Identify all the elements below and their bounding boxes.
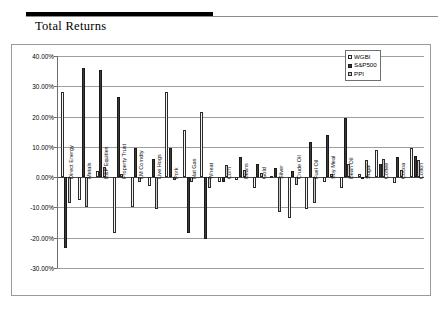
x-tick-label: Coffee bbox=[383, 163, 389, 179]
x-tick-label: Cocoa bbox=[400, 163, 406, 179]
x-tick-label: Pork bbox=[173, 168, 179, 180]
bar-series-container bbox=[57, 56, 424, 268]
bar-wgbi bbox=[235, 177, 238, 180]
bar-s-p500 bbox=[152, 159, 155, 177]
x-tick-label: Beans bbox=[243, 163, 249, 179]
bar-ppi bbox=[155, 177, 158, 209]
header-hairline bbox=[26, 16, 438, 17]
x-tick-label: Direct Energy bbox=[68, 145, 74, 179]
bar-s-p500 bbox=[187, 177, 190, 233]
bar-s-p500 bbox=[361, 177, 364, 179]
bar-s-p500 bbox=[64, 177, 67, 248]
bar-wgbi bbox=[131, 177, 134, 207]
x-tick-label: Sugar bbox=[365, 164, 371, 179]
legend-item-wgbi[interactable]: WGBI bbox=[348, 53, 377, 61]
bar-s-p500 bbox=[117, 97, 120, 177]
bar-wgbi bbox=[323, 177, 326, 182]
x-tick-label: Wheat bbox=[208, 163, 214, 179]
bar-wgbi bbox=[218, 177, 221, 182]
page-title: Total Returns bbox=[35, 19, 106, 34]
x-tick-label: Soy Meal bbox=[330, 156, 336, 179]
bar-wgbi bbox=[96, 171, 99, 177]
bar-wgbi bbox=[288, 177, 291, 218]
bar-s-p500 bbox=[169, 148, 172, 177]
bar-ppi bbox=[68, 177, 71, 203]
bar-s-p500 bbox=[99, 70, 102, 178]
x-tick-label: Corn bbox=[226, 167, 232, 179]
y-tick-label: -10.00% bbox=[30, 204, 54, 211]
bar-wgbi bbox=[113, 177, 116, 233]
bar-wgbi bbox=[165, 92, 168, 177]
x-tick-label: Silver bbox=[278, 165, 284, 179]
gridline bbox=[57, 268, 424, 269]
bar-s-p500 bbox=[291, 171, 294, 177]
x-tick-label: Bean Oil bbox=[348, 158, 354, 179]
legend-item-s-p500[interactable]: S&P500 bbox=[348, 61, 377, 69]
bar-wgbi bbox=[61, 92, 64, 177]
y-tick-label: -30.00% bbox=[30, 265, 54, 272]
bar-ppi bbox=[278, 177, 281, 212]
x-tick-label: Cotton bbox=[418, 163, 424, 179]
bar-s-p500 bbox=[344, 118, 347, 177]
bar-wgbi bbox=[148, 177, 151, 186]
bar-wgbi bbox=[358, 174, 361, 177]
bar-s-p500 bbox=[396, 157, 399, 177]
bar-s-p500 bbox=[82, 68, 85, 177]
y-tick-label: -20.00% bbox=[30, 234, 54, 241]
bar-wgbi bbox=[200, 112, 203, 177]
x-tick-label: Crude Oil bbox=[296, 156, 302, 180]
bar-wgbi bbox=[183, 130, 186, 177]
legend-label: S&P500 bbox=[354, 61, 377, 69]
bar-s-p500 bbox=[239, 157, 242, 177]
bar-wgbi bbox=[78, 177, 81, 200]
bar-wgbi bbox=[253, 177, 256, 188]
x-tick-label: Fuel Oil bbox=[313, 160, 319, 179]
bar-s-p500 bbox=[256, 164, 259, 178]
bar-s-p500 bbox=[326, 135, 329, 177]
legend-swatch-icon bbox=[348, 72, 352, 76]
y-tick-label: 10.00% bbox=[32, 143, 54, 150]
bar-s-p500 bbox=[204, 177, 207, 239]
x-tick-label: Property Trust bbox=[121, 144, 127, 179]
y-tick-label: 30.00% bbox=[32, 83, 54, 90]
bar-ppi bbox=[313, 177, 316, 203]
bar-s-p500 bbox=[274, 168, 277, 177]
y-tick-label: 0.00% bbox=[36, 174, 54, 181]
bar-s-p500 bbox=[309, 142, 312, 177]
bar-wgbi bbox=[340, 177, 343, 188]
bar-wgbi bbox=[410, 148, 413, 177]
bar-wgbi bbox=[270, 176, 273, 178]
bar-ppi bbox=[85, 177, 88, 207]
bar-s-p500 bbox=[414, 156, 417, 177]
legend-item-ppi[interactable]: PPI bbox=[348, 70, 377, 78]
x-tick-label: LM Comdty bbox=[138, 151, 144, 180]
bar-wgbi bbox=[305, 177, 308, 209]
bar-s-p500 bbox=[134, 148, 137, 177]
legend-label: PPI bbox=[354, 70, 364, 78]
legend-label: WGBI bbox=[354, 53, 371, 61]
bar-wgbi bbox=[375, 150, 378, 177]
bar-s-p500 bbox=[379, 164, 382, 178]
bar-s-p500 bbox=[222, 177, 225, 182]
x-tick-label: E&P Equities bbox=[103, 147, 109, 180]
legend-swatch-icon bbox=[348, 64, 352, 68]
x-tick-label: Live Hogs bbox=[156, 154, 162, 179]
y-tick-mark bbox=[54, 268, 57, 269]
x-tick-label: Metals bbox=[86, 163, 92, 179]
chart-plot-area: 40.00%30.00%20.00%10.00%0.00%-10.00%-20.… bbox=[57, 56, 424, 268]
bar-wgbi bbox=[393, 177, 396, 183]
y-tick-label: 40.00% bbox=[32, 53, 54, 60]
x-tick-label: Gold bbox=[261, 167, 267, 179]
y-tick-label: 20.00% bbox=[32, 113, 54, 120]
x-tick-label: Nat Gas bbox=[191, 159, 197, 180]
legend-swatch-icon bbox=[348, 55, 352, 59]
chart-legend: WGBIS&P500PPI bbox=[345, 50, 381, 81]
